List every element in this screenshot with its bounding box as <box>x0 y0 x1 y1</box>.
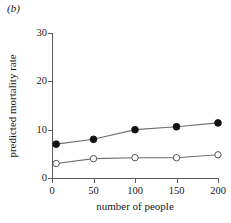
series-svg <box>44 25 226 186</box>
data-point-open-circles-150 <box>173 155 179 161</box>
data-point-filled-circles-100 <box>132 126 139 133</box>
data-layer <box>52 33 218 179</box>
x-tick-label-200: 200 <box>210 185 226 196</box>
data-point-open-circles-5 <box>53 160 59 166</box>
plot-area: 0102030 050100150200 <box>52 33 218 178</box>
x-tick-label-100: 100 <box>127 185 143 196</box>
data-point-filled-circles-150 <box>173 123 180 130</box>
series-line-filled-circles <box>56 123 218 144</box>
data-point-filled-circles-200 <box>215 120 222 127</box>
y-axis-title-text: predicted mortality rate <box>6 54 18 157</box>
y-axis-title: predicted mortality rate <box>5 33 19 178</box>
panel-label: (b) <box>7 2 20 14</box>
data-point-filled-circles-50 <box>90 136 97 143</box>
data-point-open-circles-100 <box>132 155 138 161</box>
x-tick-label-50: 50 <box>88 185 99 196</box>
data-point-open-circles-50 <box>90 155 96 161</box>
figure-panel-b: (b) predicted mortality rate 0102030 050… <box>0 0 231 223</box>
x-tick-label-150: 150 <box>169 185 185 196</box>
x-axis-title: number of people <box>52 200 218 212</box>
x-tick-label-0: 0 <box>49 185 54 196</box>
data-point-filled-circles-5 <box>53 141 60 148</box>
data-point-open-circles-200 <box>215 152 221 158</box>
